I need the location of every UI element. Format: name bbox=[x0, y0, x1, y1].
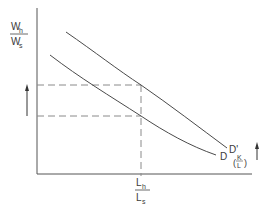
curve-label-D: D bbox=[220, 151, 227, 162]
svg-text:h: h bbox=[19, 27, 23, 34]
up-arrow-icon-right bbox=[255, 142, 259, 160]
svg-text:h: h bbox=[142, 183, 146, 190]
curve-label-D-prime: D' ( K L ) bbox=[229, 144, 247, 169]
svg-text:(: ( bbox=[233, 158, 236, 168]
svg-text:L: L bbox=[237, 162, 241, 169]
up-arrow-icon-left bbox=[25, 84, 29, 116]
curve-D-prime bbox=[66, 32, 227, 148]
svg-text:K: K bbox=[237, 154, 242, 161]
svg-text:): ) bbox=[244, 158, 247, 168]
curve-D bbox=[50, 55, 216, 155]
x-axis-label: L h L s bbox=[135, 177, 150, 205]
svg-text:s: s bbox=[19, 42, 23, 49]
svg-text:s: s bbox=[142, 198, 146, 205]
labor-demand-diagram: W h W s L h L s D' ( K L ) D bbox=[0, 0, 274, 211]
y-axis-label: W h W s bbox=[10, 21, 28, 49]
